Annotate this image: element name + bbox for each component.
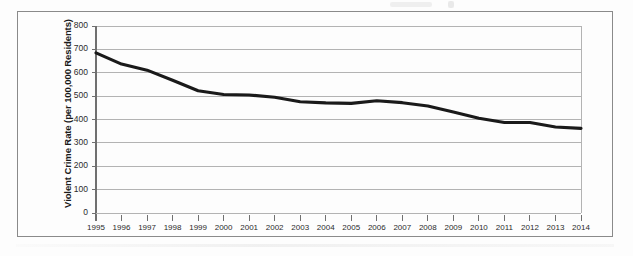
x-axis-ticks: [96, 215, 581, 221]
gridlines: [96, 26, 581, 213]
scanned-page: Violent Crime Rate (per 100,000 Resident…: [0, 0, 633, 256]
plot-canvas: [18, 12, 614, 238]
scan-artifact-dot: [448, 1, 454, 8]
chart-figure-frame: Violent Crime Rate (per 100,000 Resident…: [17, 11, 613, 237]
scan-edge-band: [16, 244, 614, 247]
data-series-line: [96, 53, 581, 129]
scan-artifact: [390, 2, 432, 7]
line-chart: Violent Crime Rate (per 100,000 Resident…: [18, 12, 614, 238]
